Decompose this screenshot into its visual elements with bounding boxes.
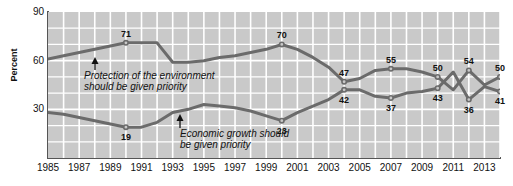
environment-annotation: Protection of the environment should be … [84, 70, 215, 92]
economy-annotation-line2: be given priority [180, 139, 289, 150]
point-value-label: 42 [329, 96, 359, 105]
chart-container: Percent 306090 7170475550545019234237433… [0, 0, 513, 186]
y-axis-tick: 60 [33, 56, 44, 66]
y-axis-tick: 90 [33, 7, 44, 17]
point-value-label: 37 [376, 104, 406, 113]
point-value-label: 41 [485, 97, 513, 106]
point-value-label: 55 [376, 56, 406, 65]
economy-annotation-line1: Economic growth should [180, 128, 289, 139]
y-axis-tick-labels: 306090 [0, 0, 44, 186]
point-value-label: 70 [267, 31, 297, 40]
point-value-label: 36 [454, 106, 484, 115]
y-axis-tick: 30 [33, 104, 44, 114]
point-value-label: 19 [111, 133, 141, 142]
economy-annotation: Economic growth should be given priority [180, 128, 289, 150]
point-value-label: 71 [111, 30, 141, 39]
economy-annotation-arrow-icon [174, 114, 186, 128]
point-value-label: 50 [423, 64, 453, 73]
x-axis-tick: 2013 [464, 162, 504, 173]
point-value-label: 43 [423, 94, 453, 103]
point-value-label: 54 [454, 57, 484, 66]
point-value-label: 47 [329, 69, 359, 78]
environment-annotation-line2: should be given priority [84, 81, 215, 92]
point-value-label: 50 [485, 64, 513, 73]
x-axis-tick-labels: 1985198719891991199319951997199920012003… [0, 162, 513, 182]
environment-annotation-line1: Protection of the environment [84, 70, 215, 81]
environment-annotation-arrow-icon [89, 57, 101, 70]
